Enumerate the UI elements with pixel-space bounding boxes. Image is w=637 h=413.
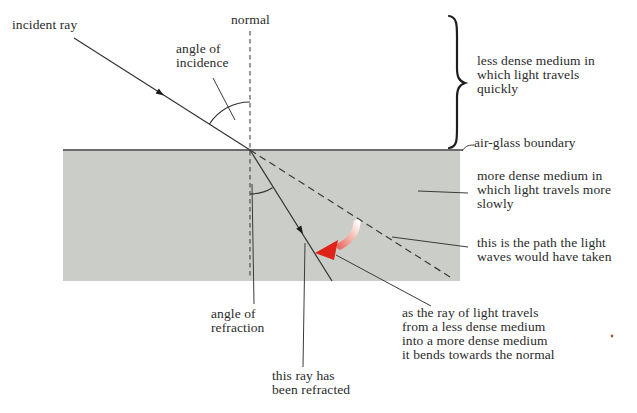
more-dense-medium-label: more dense medium in which light travels… <box>477 169 611 211</box>
refraction-diagram: incident ray normal angle of incidence l… <box>0 0 637 413</box>
bends-towards-normal-label: as the ray of light travels from a less … <box>402 306 555 362</box>
path-taken-label: this is the path the light waves would h… <box>477 236 612 264</box>
brace-icon <box>449 16 465 148</box>
angle-of-incidence-arc <box>210 102 251 124</box>
air-glass-boundary-label: air-glass boundary <box>474 136 576 150</box>
angle-of-incidence-leader <box>213 78 235 120</box>
incident-ray-arrowhead-icon <box>156 89 164 96</box>
print-speck <box>611 335 614 338</box>
air-glass-boundary-connector <box>462 145 474 151</box>
angle-of-refraction-label: angle of refraction <box>211 307 264 335</box>
angle-of-incidence-label: angle of incidence <box>176 42 229 70</box>
less-dense-medium-label: less dense medium in which light travels… <box>477 54 595 96</box>
refracted-ray-note-label: this ray has been refracted <box>272 369 350 397</box>
normal-label: normal <box>231 13 270 27</box>
incident-ray-label: incident ray <box>12 18 77 32</box>
